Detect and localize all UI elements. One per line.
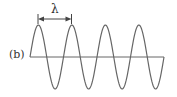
arrowhead-right-icon bbox=[66, 17, 72, 22]
arrowhead-left-icon bbox=[38, 17, 44, 22]
wave-diagram bbox=[0, 0, 177, 97]
wavelength-arrow bbox=[38, 14, 72, 24]
